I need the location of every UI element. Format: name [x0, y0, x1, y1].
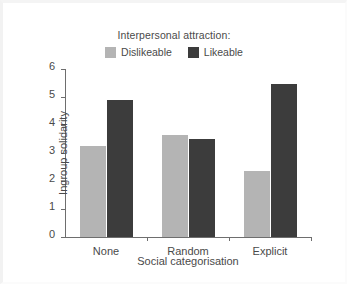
plot-area: 0123456 NoneRandomExplicit	[65, 69, 311, 237]
bar-explicit-likeable	[271, 84, 297, 237]
y-tick-5: 5	[61, 97, 65, 98]
chart-legend: Interpersonal attraction: Dislikeable Li…	[3, 29, 345, 58]
bar-none-likeable	[107, 100, 133, 237]
x-axis-line	[65, 237, 311, 238]
x-axis-title: Social categorisation	[65, 255, 311, 267]
legend-swatch-dislikeable	[105, 47, 116, 58]
y-tick-1: 1	[61, 209, 65, 210]
y-tick-0: 0	[61, 237, 65, 238]
y-axis-title: Ingroup solidarity	[57, 111, 69, 195]
x-tick-3	[311, 237, 312, 241]
legend-label-dislikeable: Dislikeable	[121, 46, 172, 58]
bar-random-dislikeable	[162, 135, 188, 237]
y-tick-label-6: 6	[49, 61, 55, 72]
y-tick-label-0: 0	[49, 229, 55, 240]
legend-entry-likeable: Likeable	[188, 46, 243, 58]
y-tick-6: 6	[61, 69, 65, 70]
legend-entries: Dislikeable Likeable	[3, 46, 345, 58]
legend-swatch-likeable	[188, 47, 199, 58]
legend-title: Interpersonal attraction:	[3, 29, 345, 41]
bar-none-dislikeable	[80, 146, 106, 237]
y-tick-label-4: 4	[49, 117, 55, 128]
y-tick-label-1: 1	[49, 201, 55, 212]
y-tick-label-5: 5	[49, 89, 55, 100]
legend-entry-dislikeable: Dislikeable	[105, 46, 172, 58]
y-tick-label-2: 2	[49, 173, 55, 184]
figure: Interpersonal attraction: Dislikeable Li…	[0, 0, 347, 284]
y-tick-label-3: 3	[49, 145, 55, 156]
x-tick-1	[147, 237, 148, 241]
x-tick-2	[229, 237, 230, 241]
bar-random-likeable	[189, 139, 215, 237]
bar-explicit-dislikeable	[244, 171, 270, 237]
legend-label-likeable: Likeable	[204, 46, 243, 58]
